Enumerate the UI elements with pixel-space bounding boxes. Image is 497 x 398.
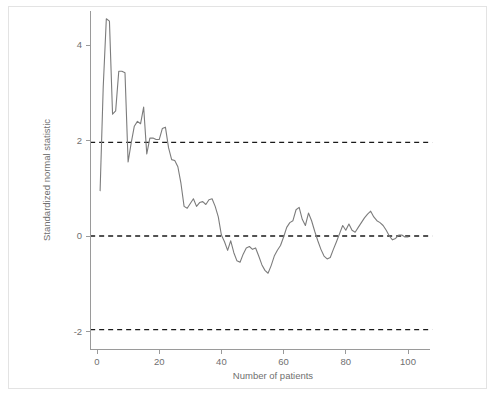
chart-canvas: -2024020406080100 Number of patients Sta…	[0, 0, 497, 398]
data-series-line	[100, 19, 408, 274]
data-series-group	[100, 19, 408, 274]
chart-figure: -2024020406080100 Number of patients Sta…	[0, 0, 497, 398]
y-tick-label: -2	[74, 326, 82, 337]
y-axis-title: Standardized normal statistic	[41, 119, 52, 241]
x-tick-label: 0	[94, 356, 99, 367]
x-axis-title: Number of patients	[233, 370, 314, 381]
x-tick-label: 80	[341, 356, 352, 367]
y-tick-label: 0	[77, 230, 82, 241]
axes-group	[86, 11, 430, 354]
plot-area: -2024020406080100 Number of patients Sta…	[0, 0, 497, 398]
x-tick-label: 40	[216, 356, 227, 367]
reference-lines-group	[90, 142, 432, 329]
x-tick-label: 20	[154, 356, 165, 367]
y-tick-label: 4	[77, 39, 82, 50]
x-tick-label: 100	[400, 356, 416, 367]
y-tick-label: 2	[77, 135, 82, 146]
x-tick-label: 60	[278, 356, 289, 367]
